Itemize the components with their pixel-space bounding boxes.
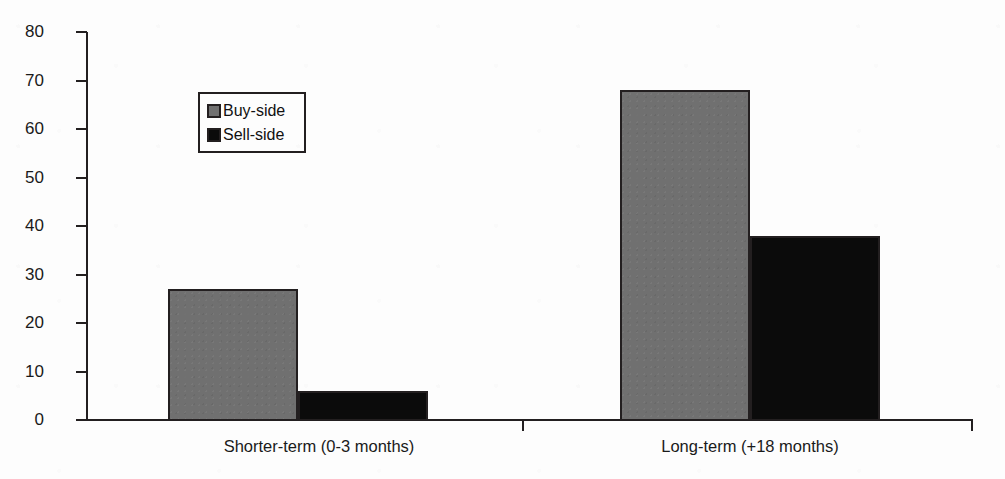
x-axis-category-divider-tick <box>522 420 524 431</box>
y-axis-tick-label: 10 <box>0 363 44 380</box>
y-axis-tick-label: 80 <box>0 23 44 40</box>
y-axis-tick <box>76 274 87 276</box>
y-axis-tick-label: 70 <box>0 72 44 89</box>
y-axis-tick-label: 50 <box>0 169 44 186</box>
y-axis-tick <box>76 225 87 227</box>
legend-item-sell-side: Sell-side <box>207 123 304 147</box>
y-axis-tick <box>76 371 87 373</box>
black-square-swatch-icon <box>207 128 221 142</box>
y-axis-tick-label: 0 <box>0 411 44 428</box>
bar-chart-figure: 01020304050607080 Shorter-term (0-3 mont… <box>0 0 1005 479</box>
y-axis-tick <box>76 322 87 324</box>
y-axis-tick <box>76 80 87 82</box>
x-axis-label-shorter-term: Shorter-term (0-3 months) <box>174 438 464 455</box>
gray-square-swatch-icon <box>207 104 221 118</box>
y-axis-tick-label: 60 <box>0 120 44 137</box>
legend: Buy-side Sell-side <box>198 92 306 153</box>
bar-buy-side-group-1 <box>168 289 298 421</box>
y-axis-tick <box>76 419 87 421</box>
legend-item-buy-side: Buy-side <box>207 99 304 123</box>
legend-label-sell-side: Sell-side <box>223 127 284 143</box>
x-axis-end-tick <box>971 420 973 431</box>
y-axis-tick <box>76 177 87 179</box>
y-axis-tick-label: 20 <box>0 314 44 331</box>
y-axis-tick <box>76 31 87 33</box>
y-axis-tick-label: 40 <box>0 217 44 234</box>
legend-label-buy-side: Buy-side <box>223 103 285 119</box>
y-axis-tick <box>76 128 87 130</box>
bar-sell-side-group-2 <box>750 236 880 421</box>
bar-buy-side-group-2 <box>620 90 750 421</box>
y-axis-tick-label: 30 <box>0 266 44 283</box>
x-axis-label-long-term: Long-term (+18 months) <box>605 438 895 455</box>
bar-sell-side-group-1 <box>298 391 428 421</box>
